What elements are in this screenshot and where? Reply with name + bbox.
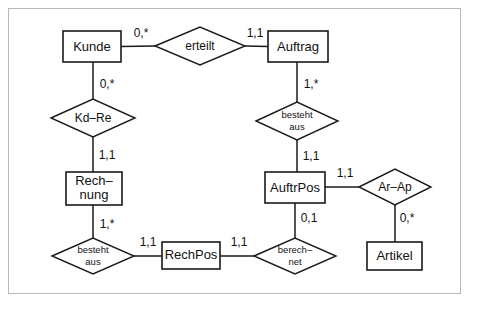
cardinality-bestehtaus2-rechpos: 1,1 [140, 235, 157, 249]
edge-erteilt-auftrag [245, 46, 268, 47]
entity-rechpos-label: RechPos [165, 247, 218, 262]
er-diagram-svg: Kunde Auftrag Rech– nung AuftrPos RechPo… [0, 0, 488, 310]
relationship-ar-ap-label: Ar–Ap [378, 180, 412, 194]
relationship-berechnet-label-line2: net [288, 256, 302, 267]
cardinality-arap-artikel: 0,* [400, 211, 415, 225]
entity-kunde-label: Kunde [73, 39, 111, 54]
relationship-berechnet[interactable]: berech– net [254, 238, 336, 274]
entity-rechnung-label-line2: nung [80, 187, 109, 202]
er-diagram-canvas: Kunde Auftrag Rech– nung AuftrPos RechPo… [0, 0, 488, 310]
relationship-besteht-aus-rechnung-label-line2: aus [85, 256, 101, 267]
entity-auftrag[interactable]: Auftrag [268, 31, 328, 62]
relationship-besteht-aus-rechnung-label-line1: besteht [77, 244, 109, 255]
cardinality-auftrag-bestehtaus: 1,* [304, 77, 319, 91]
entity-artikel[interactable]: Artikel [367, 242, 422, 270]
relationship-kd-re[interactable]: Kd–Re [51, 99, 135, 137]
cardinality-labels-group: 0,* 1,1 0,* 1,1 1,* 1,1 1,* 1,1 1,1 0,1 … [99, 26, 415, 249]
entity-rechpos[interactable]: RechPos [162, 242, 220, 269]
entity-auftrpos[interactable]: AuftrPos [265, 172, 325, 203]
relationship-besteht-aus-auftrag[interactable]: besteht aus [256, 102, 338, 140]
entity-auftrpos-label: AuftrPos [270, 180, 320, 195]
entity-kunde[interactable]: Kunde [63, 31, 121, 62]
entity-rechnung-label-line1: Rech– [75, 173, 113, 188]
cardinality-erteilt-auftrag: 1,1 [247, 26, 264, 40]
edges-group [93, 46, 395, 256]
relationship-besteht-aus-auftrag-label-line2: aus [289, 121, 305, 132]
cardinality-auftrpos-arap: 1,1 [337, 166, 354, 180]
entity-auftrag-label: Auftrag [277, 39, 319, 54]
cardinality-rechnung-bestehtaus2: 1,* [100, 217, 115, 231]
relationship-berechnet-label-line1: berech– [278, 244, 313, 255]
cardinality-kunde-erteilt: 0,* [134, 26, 149, 40]
relationship-ar-ap[interactable]: Ar–Ap [359, 169, 431, 205]
cardinality-bestehtaus-auftrpos: 1,1 [303, 149, 320, 163]
entities-group: Kunde Auftrag Rech– nung AuftrPos RechPo… [63, 31, 422, 270]
relationship-erteilt[interactable]: erteilt [155, 27, 245, 65]
relationship-kd-re-label: Kd–Re [75, 111, 112, 125]
relationship-erteilt-label: erteilt [185, 39, 215, 53]
entity-artikel-label: Artikel [376, 248, 412, 263]
cardinality-auftrpos-berechnet: 0,1 [301, 211, 318, 225]
relationship-besteht-aus-auftrag-label-line1: besteht [281, 109, 313, 120]
edge-kunde-erteilt [121, 46, 155, 47]
cardinality-rechpos-berechnet: 1,1 [231, 235, 248, 249]
cardinality-kdre-rechnung: 1,1 [99, 148, 116, 162]
relationship-besteht-aus-rechnung[interactable]: besteht aus [52, 238, 134, 274]
entity-rechnung[interactable]: Rech– nung [66, 172, 122, 205]
cardinality-kunde-kdre: 0,* [100, 77, 115, 91]
